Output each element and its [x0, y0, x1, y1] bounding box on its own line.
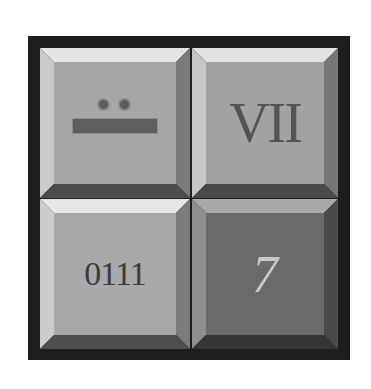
binary-seven-button[interactable]: 0111 — [40, 199, 190, 349]
arabic-numeral-label: 7 — [252, 245, 278, 304]
mayan-dot-icon — [97, 98, 110, 111]
button-face — [54, 62, 176, 184]
button-face: VII — [206, 62, 324, 184]
mayan-dot-icon — [118, 98, 131, 111]
button-face: 7 — [206, 213, 324, 335]
arabic-seven-button[interactable]: 7 — [192, 199, 338, 349]
mayan-bar-icon — [72, 118, 158, 134]
numeral-button-panel: VII 0111 7 — [28, 36, 350, 360]
roman-seven-button[interactable]: VII — [192, 48, 338, 198]
binary-numeral-label: 0111 — [84, 255, 145, 293]
mayan-numeral-icon — [72, 98, 158, 148]
roman-numeral-label: VII — [229, 91, 301, 155]
button-face: 0111 — [54, 213, 176, 335]
mayan-seven-button[interactable] — [40, 48, 190, 198]
